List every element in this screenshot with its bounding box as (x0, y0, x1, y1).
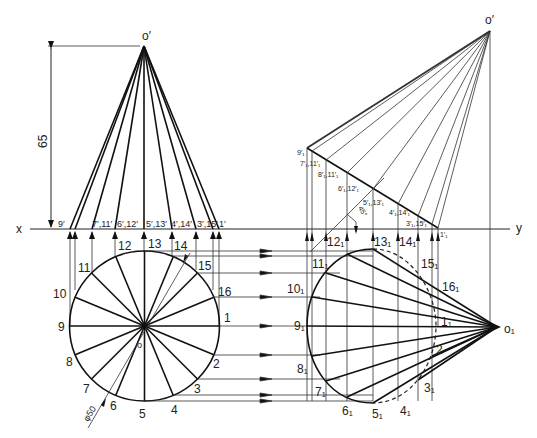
aux-apex-label: o′ (485, 13, 495, 27)
front-label-7-11: 7′,11′ (92, 219, 113, 229)
diameter-dimension: φ50 (81, 404, 98, 423)
aux-point-15: 15₁ (421, 257, 438, 271)
aux-label-1: 1′₁ (440, 231, 448, 238)
point-15: 15 (198, 259, 212, 273)
aux-point-5: 5₁ (372, 407, 383, 421)
aux-point-13: 13₁ (374, 235, 391, 249)
aux-label-8-11: 8′₁,11′₁ (318, 171, 339, 178)
point-1: 1 (224, 311, 231, 325)
point-10: 10 (53, 287, 67, 301)
front-label-5-13: 5′,13′ (146, 219, 167, 229)
front-view-cone: 65 o′ 9′ 7′,11′ 6′,12′ 5′,13′ 4′,14′ 3′,… (36, 29, 226, 326)
point-9: 9 (58, 320, 65, 334)
front-label-3-15: 3′,15′ (197, 219, 218, 229)
aux-label-7-11: 7′₁,11′₁ (300, 160, 321, 167)
aux-point-16: 16₁ (442, 280, 459, 294)
front-label-9: 9′ (58, 219, 65, 229)
aux-point-4: 4₁ (400, 404, 411, 418)
front-label-4-14: 4′,14′ (171, 219, 192, 229)
aux-point-10: 10₁ (287, 282, 304, 296)
aux-point-11: 11₁ (312, 257, 329, 271)
point-13: 13 (148, 237, 162, 251)
angle-dimension: 45° (357, 205, 368, 218)
aux-label-9: 9′₁ (297, 149, 305, 156)
aux-point-9: 9₁ (294, 319, 305, 333)
aux-point-1: 1₁ (441, 315, 452, 329)
cone-projection-drawing: x y 65 o′ 9′ 7′,11′ 6′,12′ 5′,13′ 4′, (0, 0, 537, 438)
aux-point-3: 3₁ (424, 381, 435, 395)
aux-point-12: 12₁ (327, 235, 344, 249)
center-label-o: o (137, 340, 142, 350)
front-label-1: 1′ (219, 219, 226, 229)
aux-point-7: 7₁ (315, 385, 326, 399)
aux-label-6-12: 6′₁,12′₁ (338, 185, 360, 192)
front-label-6-12: 6′,12′ (117, 219, 138, 229)
height-dimension: 65 (36, 134, 50, 148)
y-axis-label: y (516, 221, 522, 235)
x-axis-label: x (16, 222, 22, 236)
aux-label-5-13: 5′₁,13′₁ (363, 199, 385, 206)
aux-point-6: 6₁ (342, 404, 353, 418)
point-6: 6 (110, 399, 117, 413)
aux-apex-o1: o₁ (504, 322, 515, 336)
aux-label-4-14: 4′₁,14′₁ (389, 209, 411, 216)
aux-point-14: 14₁ (399, 235, 416, 249)
aux-label-3-15: 3′₁,15′₁ (406, 220, 428, 227)
aux-point-8: 8₁ (297, 362, 308, 376)
point-8: 8 (66, 355, 73, 369)
aux-top-view: o₁ 1₁ 2 3₁ 4₁ 5₁ 6₁ 7₁ 8₁ 9₁ 10₁ 11₁ 12₁… (287, 235, 515, 421)
point-3: 3 (194, 382, 201, 396)
top-view-circle: φ50 o 1 2 3 4 5 6 7 8 9 10 11 12 13 14 1… (53, 237, 232, 428)
point-4: 4 (171, 403, 178, 417)
point-7: 7 (83, 382, 90, 396)
front-apex-label: o′ (142, 29, 152, 43)
point-12: 12 (118, 239, 132, 253)
aux-point-2: 2 (436, 343, 443, 357)
point-5: 5 (139, 407, 146, 421)
point-11: 11 (78, 261, 91, 275)
point-2: 2 (213, 357, 220, 371)
